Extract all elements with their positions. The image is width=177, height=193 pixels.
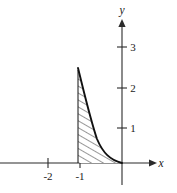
y-tick-label-3: 3 [130,41,136,53]
y-axis-ticks: 1 2 3 [117,41,136,134]
x-tick-label-minus-2: -2 [43,170,52,182]
y-axis-arrow-icon [118,19,125,27]
x-axis-label: x [157,157,164,169]
shaded-region-hatch [70,55,140,175]
y-axis: y [118,4,125,185]
plot-svg: x y -2 -1 1 2 3 [0,0,177,193]
x-tick-label-minus-1: -1 [75,170,84,182]
y-axis-label: y [118,4,125,17]
figure-container: x y -2 -1 1 2 3 [0,0,177,193]
y-tick-label-2: 2 [130,82,136,94]
y-tick-label-1: 1 [130,122,136,134]
shaded-region [70,55,140,175]
x-axis-arrow-icon [149,159,157,166]
